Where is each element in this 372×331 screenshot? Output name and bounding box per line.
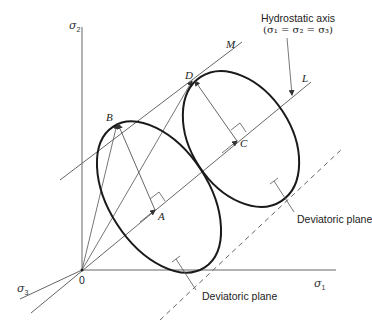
point-c-label: C (240, 138, 247, 149)
right-angle-c (231, 123, 246, 132)
line-l-label: L (302, 73, 308, 84)
sigma3-axis (20, 270, 82, 299)
deviatoric-pointer-lower (176, 259, 196, 290)
sigma-subscript: 1 (322, 284, 326, 291)
hydrostatic-pointer (287, 38, 292, 95)
sigma1-label: σ1 (314, 278, 325, 291)
point-d-label: D (185, 70, 193, 81)
hydrostatic-axis-annotation: Hydrostatic axis (σ₁ = σ₂ = σ₃) (250, 12, 346, 36)
point-a-label: A (158, 211, 165, 222)
arrow-to-a (140, 210, 155, 222)
tangent-line-m (60, 42, 242, 180)
hydrostatic-axis-title: Hydrostatic axis (250, 12, 346, 24)
deviatoric-tick-upper (270, 178, 278, 184)
deviatoric-tick-lower (172, 256, 180, 262)
deviatoric-ellipse-lower (71, 99, 246, 294)
arrow-to-c (222, 141, 237, 153)
origin-point (81, 269, 84, 272)
sigma-subscript: 2 (77, 26, 81, 33)
radius-cd (195, 81, 237, 141)
sigma-symbol: σ (17, 282, 25, 295)
sigma-symbol: σ (314, 277, 322, 290)
radius-ab (118, 124, 155, 210)
deviatoric-plane-diagram: σ2 σ1 σ3 0 Hydrostatic axis (σ₁ = σ₂ = σ… (0, 0, 372, 331)
sigma-symbol: σ (69, 19, 77, 32)
sigma2-label: σ2 (69, 20, 80, 33)
sigma3-label: σ3 (17, 283, 28, 296)
right-angle-a (150, 192, 165, 201)
deviatoric-plane-label-upper: Deviatoric plane (297, 213, 372, 225)
line-m-label: M (226, 39, 235, 50)
sigma-subscript: 3 (25, 289, 29, 296)
point-b-label: B (106, 112, 113, 123)
deviatoric-plane-label-lower: Deviatoric plane (202, 290, 277, 302)
origin-label: 0 (79, 274, 85, 286)
hydrostatic-axis-equation: (σ₁ = σ₂ = σ₃) (250, 24, 346, 36)
